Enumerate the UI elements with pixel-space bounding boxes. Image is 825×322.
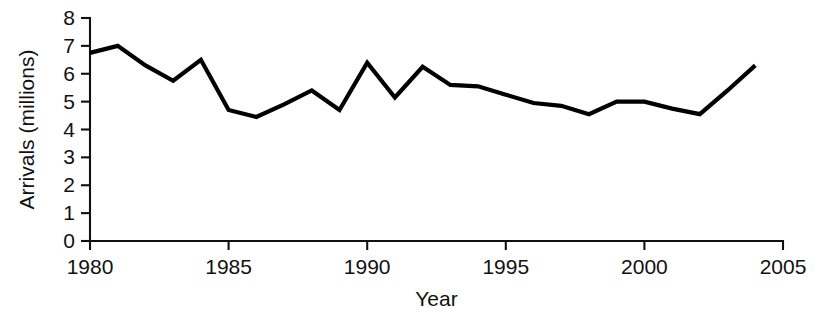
x-tick-label: 1985 <box>205 255 252 278</box>
x-tick-label: 2005 <box>760 255 807 278</box>
y-tick-label: 5 <box>63 90 75 113</box>
x-tick-label: 1990 <box>344 255 391 278</box>
y-tick-label: 1 <box>63 201 75 224</box>
y-tick-label: 7 <box>63 34 75 57</box>
x-axis-ticks <box>90 241 783 250</box>
x-tick-label: 2000 <box>621 255 668 278</box>
y-tick-label: 0 <box>63 229 75 252</box>
data-series-arrivals <box>90 46 755 117</box>
y-tick-label: 6 <box>63 62 75 85</box>
y-tick-label: 2 <box>63 173 75 196</box>
y-axis-title: Arrivals (millions) <box>15 50 38 210</box>
chart-canvas: 012345678 198019851990199520002005 Arriv… <box>0 0 825 322</box>
y-tick-label: 8 <box>63 6 75 29</box>
x-tick-label: 1995 <box>482 255 529 278</box>
x-axis-tick-labels: 198019851990199520002005 <box>67 255 807 278</box>
y-axis-tick-labels: 012345678 <box>63 6 75 252</box>
y-tick-label: 4 <box>63 118 75 141</box>
y-axis-ticks <box>81 18 90 241</box>
y-tick-label: 3 <box>63 145 75 168</box>
x-axis-title: Year <box>415 287 457 310</box>
line-chart-figure: 012345678 198019851990199520002005 Arriv… <box>0 0 825 322</box>
x-tick-label: 1980 <box>67 255 114 278</box>
